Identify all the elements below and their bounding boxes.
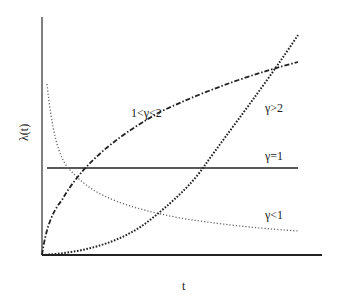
label-gamma-eq-1: γ=1	[264, 149, 283, 163]
label-gamma-between-1-2: 1<γ<2	[131, 106, 162, 120]
x-axis-label: t	[182, 279, 186, 293]
label-gamma-lt-1: γ<1	[264, 208, 283, 222]
hazard-chart: 1<γ<2 γ>2 γ=1 γ<1 t λ(t)	[0, 0, 340, 303]
y-axis-label: λ(t)	[17, 124, 31, 141]
curve-gamma-lt-1	[47, 84, 298, 231]
label-gamma-gt-2: γ>2	[264, 101, 283, 115]
curve-gamma-gt-2	[42, 35, 298, 255]
